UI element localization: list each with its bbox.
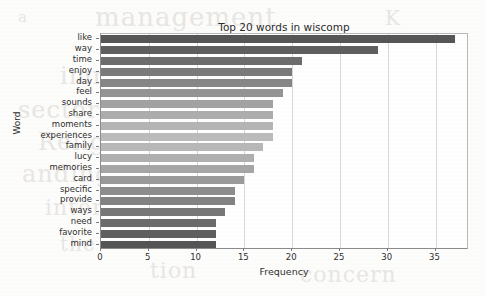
y-tick-label-share: share <box>68 109 92 118</box>
x-tick-mark-10 <box>196 248 197 251</box>
x-tick-label-35: 35 <box>429 252 440 262</box>
y-tick-label-provide: provide <box>60 195 92 204</box>
y-tick-mark-memories <box>96 168 99 169</box>
plot-area <box>100 33 468 249</box>
y-tick-label-memories: memories <box>49 163 92 172</box>
y-tick-label-sounds: sounds <box>62 98 92 107</box>
y-tick-label-moments: moments <box>52 120 92 129</box>
bar-fill-specific <box>101 187 235 195</box>
y-axis-title: Word <box>12 93 22 153</box>
bar <box>101 35 455 43</box>
bar-fill-way <box>101 46 378 54</box>
bar-fill-family <box>101 143 263 151</box>
x-tick-mark-25 <box>339 248 340 251</box>
bar <box>101 176 244 184</box>
bar <box>101 208 225 216</box>
scanned-page: managementKaimmig atiosectoralReligionan… <box>0 0 486 296</box>
y-tick-mark-need <box>96 222 99 223</box>
x-tick-label-25: 25 <box>334 252 345 262</box>
x-tick-mark-30 <box>387 248 388 251</box>
bar-fill-memories <box>101 165 254 173</box>
x-tick-mark-35 <box>435 248 436 251</box>
y-tick-label-ways: ways <box>70 206 92 215</box>
bar-fill-moments <box>101 122 273 130</box>
bar <box>101 143 263 151</box>
bar-fill-provide <box>101 197 235 205</box>
y-tick-label-specific: specific <box>60 185 92 194</box>
x-tick-mark-15 <box>243 248 244 251</box>
bar <box>101 68 292 76</box>
bar-fill-feel <box>101 89 283 97</box>
bar <box>101 165 254 173</box>
y-tick-mark-day <box>96 82 99 83</box>
y-tick-label-favorite: favorite <box>59 228 92 237</box>
chart-title: Top 20 words in wiscomp <box>100 21 468 33</box>
y-tick-label-family: family <box>66 141 92 150</box>
bar <box>101 197 235 205</box>
bar <box>101 154 254 162</box>
bar-fill-favorite <box>101 230 216 238</box>
bar <box>101 100 273 108</box>
bar <box>101 57 302 65</box>
y-tick-label-time: time <box>73 55 92 64</box>
x-tick-mark-5 <box>148 248 149 251</box>
y-tick-label-lucy: lucy <box>75 152 92 161</box>
bar-fill-sounds <box>101 100 273 108</box>
bar-fill-lucy <box>101 154 254 162</box>
y-tick-mark-time <box>96 60 99 61</box>
y-tick-label-card: card <box>73 174 92 183</box>
bar-series <box>101 34 467 248</box>
y-tick-mark-card <box>96 179 99 180</box>
bar-chart-figure: Top 20 words in wiscomp likewaytimeenjoy… <box>0 0 486 296</box>
x-tick-label-20: 20 <box>286 252 297 262</box>
y-tick-mark-share <box>96 114 99 115</box>
x-tick-label-5: 5 <box>145 252 150 262</box>
y-tick-label-experiences: experiences <box>40 131 92 140</box>
y-tick-label-enjoy: enjoy <box>69 66 92 75</box>
bar-fill-card <box>101 176 244 184</box>
y-tick-mark-like <box>96 38 99 39</box>
y-tick-mark-feel <box>96 92 99 93</box>
bar <box>101 219 216 227</box>
bar-fill-time <box>101 57 302 65</box>
y-tick-mark-enjoy <box>96 71 99 72</box>
bar-fill-ways <box>101 208 225 216</box>
y-tick-label-day: day <box>76 77 92 86</box>
y-tick-label-feel: feel <box>76 87 92 96</box>
y-tick-mark-mind <box>96 244 99 245</box>
bar-fill-need <box>101 219 216 227</box>
x-axis-tick-labels: 05101520253035 <box>100 252 468 266</box>
x-tick-mark-0 <box>100 248 101 251</box>
y-tick-label-mind: mind <box>71 239 92 248</box>
y-tick-mark-favorite <box>96 233 99 234</box>
bar <box>101 111 273 119</box>
bar-fill-share <box>101 111 273 119</box>
y-tick-mark-experiences <box>96 136 99 137</box>
y-tick-mark-sounds <box>96 103 99 104</box>
y-tick-mark-ways <box>96 211 99 212</box>
bar <box>101 79 292 87</box>
bar <box>101 230 216 238</box>
bar-fill-experiences <box>101 133 273 141</box>
x-tick-label-0: 0 <box>97 252 102 262</box>
x-tick-label-10: 10 <box>190 252 201 262</box>
x-tick-label-30: 30 <box>381 252 392 262</box>
bar <box>101 187 235 195</box>
y-tick-mark-specific <box>96 190 99 191</box>
bar-fill-enjoy <box>101 68 292 76</box>
bar-fill-day <box>101 79 292 87</box>
bar <box>101 89 283 97</box>
y-tick-mark-provide <box>96 200 99 201</box>
y-tick-mark-lucy <box>96 157 99 158</box>
x-tick-mark-20 <box>291 248 292 251</box>
y-tick-mark-moments <box>96 125 99 126</box>
bar <box>101 122 273 130</box>
x-axis-title: Frequency <box>100 266 468 277</box>
bar-fill-like <box>101 35 455 43</box>
bar <box>101 133 273 141</box>
x-tick-label-15: 15 <box>238 252 249 262</box>
bar-fill-mind <box>101 241 216 249</box>
y-tick-label-need: need <box>71 217 92 226</box>
y-tick-mark-way <box>96 49 99 50</box>
y-tick-label-way: way <box>75 44 92 53</box>
